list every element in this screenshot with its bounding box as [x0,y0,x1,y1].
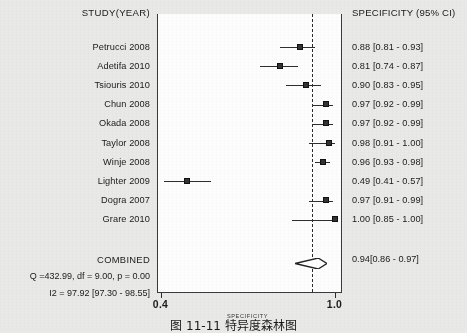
study-row: Okada 20080.97 [0.92 - 0.99] [0,114,467,133]
study-ci-value: 0.96 [0.93 - 0.98] [352,153,467,172]
column-header-study: STUDY(YEAR) [0,6,150,20]
study-label: Grare 2010 [0,210,150,229]
study-label: Petrucci 2008 [0,38,150,57]
study-ci-value: 0.90 [0.83 - 0.95] [352,76,467,95]
study-row: Dogra 20070.97 [0.91 - 0.99] [0,191,467,210]
study-label: Adetifa 2010 [0,57,150,76]
heterogeneity-q-line: Q =432.99, df = 9.00, p = 0.00 [0,271,150,281]
study-label: Tsiouris 2010 [0,76,150,95]
study-label: Lighter 2009 [0,172,150,191]
study-row: Lighter 20090.49 [0.41 - 0.57] [0,172,467,191]
combined-label: COMBINED [0,254,150,265]
study-label: Okada 2008 [0,114,150,133]
study-ci-value: 0.81 [0.74 - 0.87] [352,57,467,76]
combined-diamond [295,255,327,266]
study-ci-value: 0.49 [0.41 - 0.57] [352,172,467,191]
study-label: Taylor 2008 [0,134,150,153]
study-ci-value: 0.97 [0.92 - 0.99] [352,95,467,114]
tick-low-mark [161,293,162,298]
study-ci-value: 0.97 [0.91 - 0.99] [352,191,467,210]
study-ci-value: 0.98 [0.91 - 1.00] [352,134,467,153]
study-row: Petrucci 20080.88 [0.81 - 0.93] [0,38,467,57]
study-row: Chun 20080.97 [0.92 - 0.99] [0,95,467,114]
study-row: Grare 20101.00 [0.85 - 1.00] [0,210,467,229]
study-row: Taylor 20080.98 [0.91 - 1.00] [0,134,467,153]
figure-caption: 图 11-11 特异度森林图 [0,316,467,333]
tick-low-label: 0.4 [153,299,168,310]
study-ci-value: 0.97 [0.92 - 0.99] [352,114,467,133]
heterogeneity-i2-line: I2 = 97.92 [97.30 - 98.55] [0,288,150,298]
study-row: Tsiouris 20100.90 [0.83 - 0.95] [0,76,467,95]
tick-high-label: 1.0 [327,299,342,310]
study-ci-value: 1.00 [0.85 - 1.00] [352,210,467,229]
study-label: Dogra 2007 [0,191,150,210]
study-label: Winje 2008 [0,153,150,172]
combined-ci-value: 0.94[0.86 - 0.97] [352,254,467,264]
study-ci-value: 0.88 [0.81 - 0.93] [352,38,467,57]
study-row: Adetifa 20100.81 [0.74 - 0.87] [0,57,467,76]
tick-high-mark [335,293,336,298]
study-row: Winje 20080.96 [0.93 - 0.98] [0,153,467,172]
study-label: Chun 2008 [0,95,150,114]
column-header-specificity: SPECIFICITY (95% CI) [352,6,467,20]
